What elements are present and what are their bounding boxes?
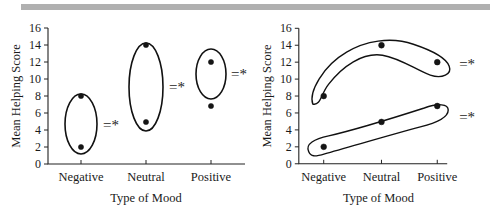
right-ytick-2: 2 [286,140,292,154]
right-ytick-8: 8 [286,89,292,103]
right-datapoint-neutral-lower [379,119,385,125]
right-x-ticks [324,160,438,164]
right-ytick-10: 10 [280,72,292,86]
left-datapoint-positive-lower [208,103,213,108]
right-datapoint-negative-upper [321,93,327,99]
left-ytick-16: 16 [29,21,41,35]
left-chart-panel: 0 2 4 6 8 10 12 14 16 Negative Neutral P… [0,0,251,210]
left-ytick-4: 4 [35,123,41,137]
left-axes [48,28,245,164]
right-ytick-4: 4 [286,123,292,137]
right-annotation-lower-series: =* [459,109,475,125]
right-lasso-upper-series [312,40,450,104]
right-y-ticks [295,28,299,163]
right-plot-svg: 0 2 4 6 8 10 12 14 16 Negative Neutral P… [251,0,502,210]
left-ytick-12: 12 [29,55,41,69]
left-datapoint-neutral-lower [143,119,148,124]
figure-container: 0 2 4 6 8 10 12 14 16 Negative Neutral P… [0,0,503,210]
left-y-ticks [44,28,48,164]
right-ytick-14: 14 [280,38,292,52]
right-yaxis-title: Mean Helping Score [260,44,274,147]
right-datapoint-neutral-upper [379,42,385,48]
right-datapoint-positive-lower [434,103,440,109]
left-ytick-14: 14 [29,38,41,52]
right-xtick-neutral: Neutral [363,170,401,184]
left-ytick-0: 0 [35,157,41,171]
left-datapoint-neutral-upper [143,42,148,47]
left-yaxis-title: Mean Helping Score [9,44,23,148]
left-annotation-positive: =* [231,66,247,82]
left-ytick-2: 2 [35,140,41,154]
left-xtick-positive: Positive [191,170,232,184]
left-ytick-10: 10 [29,72,41,86]
right-ytick-12: 12 [280,55,292,69]
left-annotation-negative: =* [103,117,119,133]
right-xtick-negative: Negative [301,170,346,184]
right-chart-panel: 0 2 4 6 8 10 12 14 16 Negative Neutral P… [251,0,502,210]
left-ytick-6: 6 [35,106,41,120]
right-ytick-16: 16 [280,21,292,35]
right-xaxis-title: Type of Mood [343,191,415,205]
left-ytick-8: 8 [35,89,41,103]
left-xtick-neutral: Neutral [127,170,165,184]
left-group-ellipse-positive [196,49,226,99]
left-annotation-neutral: =* [169,79,185,95]
right-datapoint-positive-upper [434,59,440,65]
right-lasso-lower-series [308,105,448,156]
left-plot-svg: 0 2 4 6 8 10 12 14 16 Negative Neutral P… [0,0,251,210]
right-ytick-0: 0 [286,157,292,171]
right-xtick-positive: Positive [417,170,458,184]
right-datapoint-negative-lower [321,144,327,150]
right-annotation-upper-series: =* [459,56,475,72]
left-group-ellipse-neutral [129,43,163,131]
left-xtick-negative: Negative [58,170,104,184]
left-datapoint-negative-lower [78,144,83,149]
left-datapoint-negative-upper [78,93,83,98]
right-ytick-6: 6 [286,106,292,120]
left-x-ticks [81,160,211,164]
left-xaxis-title: Type of Mood [110,191,182,205]
left-datapoint-positive-upper [208,59,213,64]
